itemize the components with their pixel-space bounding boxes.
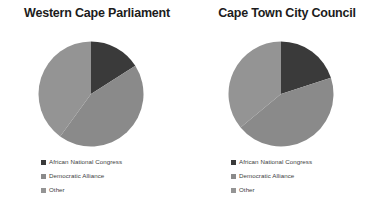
legend-label-other: Other xyxy=(239,186,255,194)
legend-item-da: Democratic Alliance xyxy=(231,170,381,182)
pie-svg xyxy=(38,41,144,147)
legend-item-other: Other xyxy=(231,184,381,196)
legend-label-da: Democratic Alliance xyxy=(49,172,104,180)
pie-svg xyxy=(228,41,334,147)
legend: African National Congress Democratic All… xyxy=(41,156,191,198)
page-title: Western Cape Parliament xyxy=(0,6,192,20)
legend-swatch-icon-da xyxy=(41,174,46,179)
legend-label-other: Other xyxy=(49,186,65,194)
legend-swatch-icon-anc xyxy=(41,160,46,165)
legend: African National Congress Democratic All… xyxy=(231,156,381,198)
page-title: Cape Town City Council xyxy=(190,6,381,20)
legend-swatch-icon-da xyxy=(231,174,236,179)
legend-swatch-icon-other xyxy=(41,188,46,193)
legend-item-anc: African National Congress xyxy=(41,156,191,168)
chart-panel-cape-town-city-council: Cape Town City Council African National … xyxy=(190,0,380,213)
chart-panel-western-cape-parliament: Western Cape Parliament African National… xyxy=(0,0,190,213)
legend-item-anc: African National Congress xyxy=(231,156,381,168)
legend-label-anc: African National Congress xyxy=(49,158,122,166)
legend-label-anc: African National Congress xyxy=(239,158,312,166)
legend-item-da: Democratic Alliance xyxy=(41,170,191,182)
legend-swatch-icon-anc xyxy=(231,160,236,165)
pie-chart-figure: Western Cape Parliament African National… xyxy=(0,0,381,213)
pie-chart-cape-town-city-council xyxy=(228,41,334,147)
legend-item-other: Other xyxy=(41,184,191,196)
pie-chart-western-cape-parliament xyxy=(38,41,144,147)
legend-swatch-icon-other xyxy=(231,188,236,193)
legend-label-da: Democratic Alliance xyxy=(239,172,294,180)
